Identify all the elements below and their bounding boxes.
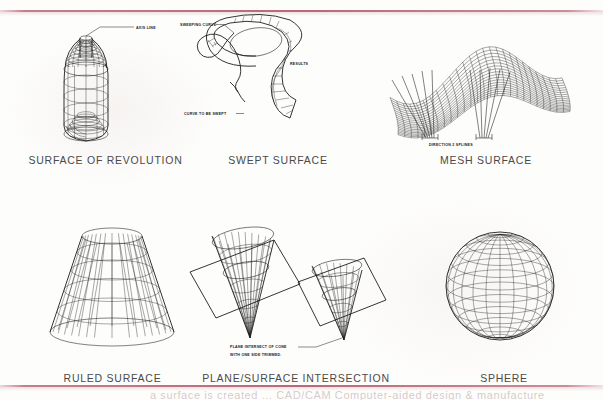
caption-ruled-surface: RULED SURFACE	[20, 372, 205, 384]
scanned-page: AXIS LINE	[0, 0, 603, 400]
swept-surface-artwork: SWEEPING CURVE CURVE TO BE SWEPT	[178, 14, 378, 154]
annotation-axis-line: AXIS LINE	[136, 26, 156, 30]
annotation-curve-to-be-swept: CURVE TO BE SWEPT	[184, 112, 227, 116]
annotation-results: RESULTS	[290, 62, 309, 66]
caption-plane-surface-intersection: PLANE/SURFACE INTERSECTION	[182, 372, 410, 384]
ruled-surface-artwork	[20, 214, 205, 364]
caption-mesh-surface: MESH SURFACE	[372, 154, 600, 166]
cutting-plane-left	[190, 240, 300, 318]
caption-swept-surface: SWEPT SURFACE	[178, 154, 378, 166]
cutting-plane-right	[298, 258, 386, 326]
ruled-surface-generators	[53, 229, 171, 343]
mesh-surface-artwork: DIRECTION 2 SPLINES	[372, 14, 600, 154]
annotation-plane-intersect-of-cone: PLANE INTERSECT OF CONE	[230, 345, 287, 349]
figure-swept-surface: SWEEPING CURVE CURVE TO BE SWEPT	[178, 14, 378, 182]
surface-of-revolution-artwork: AXIS LINE	[8, 14, 203, 154]
annotation-with-one-side-trimmed: WITH ONE SIDE TRIMMED.	[230, 353, 282, 357]
figure-sphere: SPHERE	[408, 214, 600, 382]
sweeping-curve-leader	[216, 25, 234, 34]
swept-result-tube	[206, 14, 301, 118]
figure-grid: AXIS LINE	[0, 14, 603, 382]
cropped-body-text: a surface is created ... CAD/CAM Compute…	[150, 390, 570, 400]
cone-right-group	[298, 257, 386, 340]
plane-surface-intersection-artwork: PLANE INTERSECT OF CONE WITH ONE SIDE TR…	[182, 214, 410, 364]
caption-surface-of-revolution: SURFACE OF REVOLUTION	[8, 154, 203, 166]
annotation-sweeping-curve: SWEEPING CURVE	[180, 23, 217, 27]
annotation-direction-2-splines: DIRECTION 2 SPLINES	[429, 143, 473, 147]
sphere-artwork	[408, 214, 600, 364]
intersection-note-leader	[298, 338, 342, 347]
figure-plane-surface-intersection: PLANE INTERSECT OF CONE WITH ONE SIDE TR…	[182, 214, 410, 382]
sweeping-curve-path	[197, 33, 245, 102]
figure-mesh-surface: DIRECTION 2 SPLINES MESH SURFACE	[372, 14, 600, 182]
cone-left-group	[190, 223, 300, 338]
caption-sphere: SPHERE	[408, 372, 600, 384]
figure-surface-of-revolution: AXIS LINE	[8, 14, 203, 182]
axis-line-leader	[86, 27, 134, 36]
figure-ruled-surface: RULED SURFACE	[20, 214, 205, 382]
